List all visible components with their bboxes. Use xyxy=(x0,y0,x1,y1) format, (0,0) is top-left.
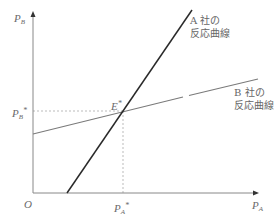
curve-b-label-line1: B 社の xyxy=(234,86,274,99)
pa-star-label: PA* xyxy=(114,199,129,219)
x-axis-label: PA xyxy=(252,199,263,216)
y-axis-arrow-icon xyxy=(31,11,36,17)
equilibrium-label-main: E xyxy=(111,100,118,112)
pb-star-main: P xyxy=(12,107,19,119)
curve-a-label-line2: 反応曲線 xyxy=(190,27,230,40)
equilibrium-label-sup: * xyxy=(118,99,122,108)
y-axis-label-sub: B xyxy=(21,18,25,26)
y-axis-label: PB xyxy=(14,12,25,29)
equilibrium-label: E* xyxy=(111,97,122,113)
curve-b-label-line2: 反応曲線 xyxy=(234,99,274,112)
curve-a-label: A 社の 反応曲線 xyxy=(190,14,230,40)
x-axis-label-sub: A xyxy=(259,205,263,213)
pb-star-label: PB* xyxy=(12,104,27,124)
pa-star-sup: * xyxy=(125,201,129,210)
curve-a xyxy=(67,10,192,193)
y-axis-label-main: P xyxy=(14,12,21,24)
pa-star-main: P xyxy=(114,202,121,214)
curve-a-label-line1: A 社の xyxy=(190,14,230,27)
x-axis-label-main: P xyxy=(252,199,259,211)
x-axis-arrow-icon xyxy=(253,191,259,196)
curve-b-label: B 社の 反応曲線 xyxy=(234,86,274,112)
pb-star-sup: * xyxy=(23,106,27,115)
origin-label: O xyxy=(24,198,32,211)
curve-b-segment-left xyxy=(33,97,183,134)
